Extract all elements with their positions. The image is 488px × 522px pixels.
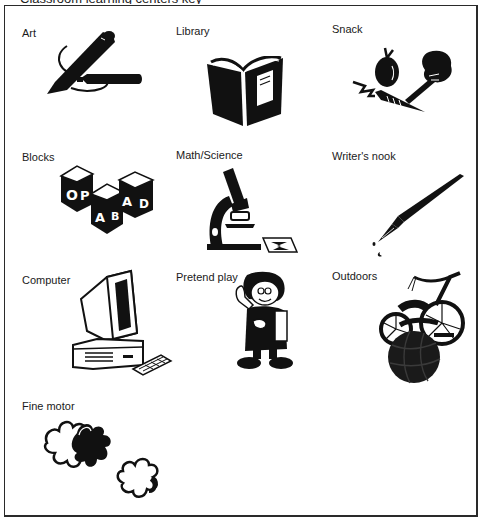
- pretend-child-icon: [225, 269, 305, 373]
- clipped-page-title: Classroom learning centers key: [0, 0, 488, 4]
- center-snack: Snack: [320, 6, 480, 136]
- center-label: Fine motor: [22, 400, 75, 412]
- svg-text:D: D: [139, 197, 149, 211]
- clipped-title-text: Classroom learning centers key: [20, 0, 202, 4]
- tricycle-ball-icon: [370, 263, 470, 389]
- center-label: Writer's nook: [332, 150, 396, 162]
- svg-text:B: B: [111, 210, 119, 223]
- book-icon: [205, 56, 285, 128]
- center-pretend-play: Pretend play: [155, 261, 320, 391]
- svg-text:P: P: [80, 188, 90, 203]
- center-writers-nook: Writer's nook: [320, 136, 480, 261]
- center-label: Art: [22, 27, 36, 39]
- puzzle-pieces-icon: [43, 413, 167, 505]
- fruit-vegetables-icon: [345, 46, 465, 126]
- center-label: Computer: [22, 274, 70, 286]
- center-outdoors: Outdoors: [320, 261, 480, 391]
- center-label: Snack: [332, 23, 363, 35]
- svg-text:A: A: [122, 194, 132, 209]
- fountain-pen-icon: [360, 172, 470, 258]
- center-library: Library: [155, 6, 320, 136]
- center-computer: Computer: [5, 261, 155, 391]
- center-fine-motor: Fine motor: [5, 391, 175, 518]
- svg-text:A: A: [95, 210, 105, 225]
- markers-icon: [41, 26, 151, 96]
- center-art: Art: [5, 6, 155, 136]
- center-label: Math/Science: [176, 149, 243, 161]
- learning-centers-frame: Art Library: [4, 5, 478, 517]
- microscope-icon: [205, 166, 305, 254]
- center-label: Blocks: [22, 151, 54, 163]
- svg-text:O: O: [66, 187, 78, 203]
- alphabet-blocks-icon: O P A B A D: [55, 164, 159, 236]
- center-label: Library: [176, 25, 210, 37]
- center-blocks: Blocks O P A B A D: [5, 136, 155, 261]
- center-math-science: Math/Science: [155, 136, 320, 261]
